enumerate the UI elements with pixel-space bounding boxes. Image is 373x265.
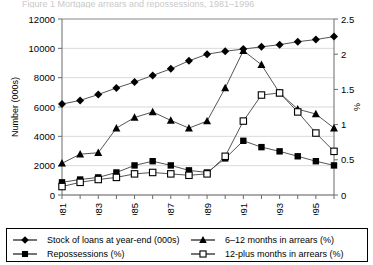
x-axis-tick-label: 1991 — [238, 203, 249, 215]
y2-axis-tick-label: 1.5 — [341, 84, 354, 95]
data-point-marker — [240, 118, 246, 124]
data-point-marker — [185, 57, 193, 65]
x-axis-tick-label: 1987 — [165, 203, 176, 215]
series-1 — [58, 33, 338, 108]
data-point-marker — [186, 172, 192, 178]
y2-axis-tick-label: 0.5 — [341, 154, 354, 165]
y-axis-tick-label: 12000 — [29, 14, 55, 25]
data-point-marker — [149, 71, 157, 79]
x-axis-tick-label: 1983 — [93, 203, 104, 215]
data-point-marker — [295, 109, 301, 115]
data-point-marker — [221, 84, 229, 91]
legend-label: Repossessions (%) — [47, 249, 125, 259]
x-axis-tick-label: 1985 — [129, 203, 140, 215]
data-point-marker — [257, 61, 265, 68]
data-point-marker — [258, 92, 264, 98]
data-point-marker — [77, 179, 83, 185]
data-point-marker — [168, 162, 174, 168]
plot-area: 02000400060008000100001200000.511.522.51… — [0, 8, 373, 215]
data-point-marker — [276, 90, 282, 96]
y-axis-tick-label: 2000 — [34, 160, 55, 171]
data-point-marker — [95, 176, 101, 182]
data-point-marker — [168, 171, 174, 177]
data-point-marker — [331, 162, 337, 168]
legend-label: 12-plus months in arrears (%) — [225, 249, 344, 259]
data-point-marker — [58, 159, 66, 166]
chart-figure: Figure 1 Mortgage arrears and repossessi… — [0, 0, 373, 265]
legend-open-square-marker — [200, 251, 206, 257]
data-point-marker — [203, 50, 211, 58]
x-axis-tick-label: 1993 — [274, 203, 285, 215]
data-point-marker — [331, 148, 337, 154]
data-point-marker — [204, 171, 210, 177]
data-point-marker — [167, 116, 175, 123]
y-axis-tick-label: 0 — [50, 190, 55, 201]
data-point-marker — [276, 148, 282, 154]
y2-axis-tick-label: 2 — [341, 49, 346, 60]
data-point-marker — [149, 108, 157, 115]
data-point-marker — [94, 91, 102, 99]
data-point-marker — [131, 171, 137, 177]
chart-svg: 02000400060008000100001200000.511.522.51… — [0, 8, 373, 215]
data-point-marker — [313, 158, 319, 164]
y-axis-tick-label: 8000 — [34, 72, 55, 83]
legend-label: Stock of loans at year-end (000s) — [47, 235, 180, 245]
x-axis-tick-label: 1995 — [310, 203, 321, 215]
y-axis-tick-label: 6000 — [34, 102, 55, 113]
legend-filled-square-marker — [22, 251, 28, 257]
y2-axis-tick-label: 1 — [341, 119, 346, 130]
x-axis-tick-label: 1981 — [57, 203, 68, 215]
data-point-marker — [257, 43, 265, 51]
data-point-marker — [313, 130, 319, 136]
x-axis-tick-label: 1989 — [202, 203, 213, 215]
data-point-marker — [59, 183, 65, 189]
data-point-marker — [203, 117, 211, 124]
data-point-marker — [167, 65, 175, 73]
data-point-marker — [185, 124, 193, 131]
data-point-marker — [312, 36, 320, 44]
data-point-marker — [294, 38, 302, 46]
series-2 — [58, 46, 338, 166]
y2-axis-title: % — [352, 103, 362, 111]
data-point-marker — [112, 124, 120, 131]
data-point-marker — [131, 78, 139, 86]
data-point-marker — [276, 41, 284, 49]
legend-filled-diamond-marker — [21, 236, 29, 244]
legend-svg: Stock of loans at year-end (000s)6–12 mo… — [7, 229, 367, 261]
data-point-marker — [131, 162, 137, 168]
data-point-marker — [112, 84, 120, 92]
chart-legend: Stock of loans at year-end (000s)6–12 mo… — [6, 228, 368, 262]
data-point-marker — [330, 33, 338, 41]
data-point-marker — [76, 96, 84, 104]
data-point-marker — [113, 174, 119, 180]
data-point-marker — [295, 153, 301, 159]
data-point-marker — [258, 144, 264, 150]
y-axis-tick-label: 4000 — [34, 131, 55, 142]
data-point-marker — [149, 169, 155, 175]
data-point-marker — [149, 158, 155, 164]
legend-label: 6–12 months in arrears (%) — [225, 235, 334, 245]
y-axis-title: Number (000s) — [10, 77, 20, 137]
data-point-marker — [240, 138, 246, 144]
figure-title-clipped: Figure 1 Mortgage arrears and repossessi… — [0, 0, 373, 8]
y2-axis-tick-label: 2.5 — [341, 14, 354, 25]
y-axis-tick-label: 10000 — [29, 43, 55, 54]
data-point-marker — [222, 153, 228, 159]
y2-axis-tick-label: 0 — [341, 190, 346, 201]
